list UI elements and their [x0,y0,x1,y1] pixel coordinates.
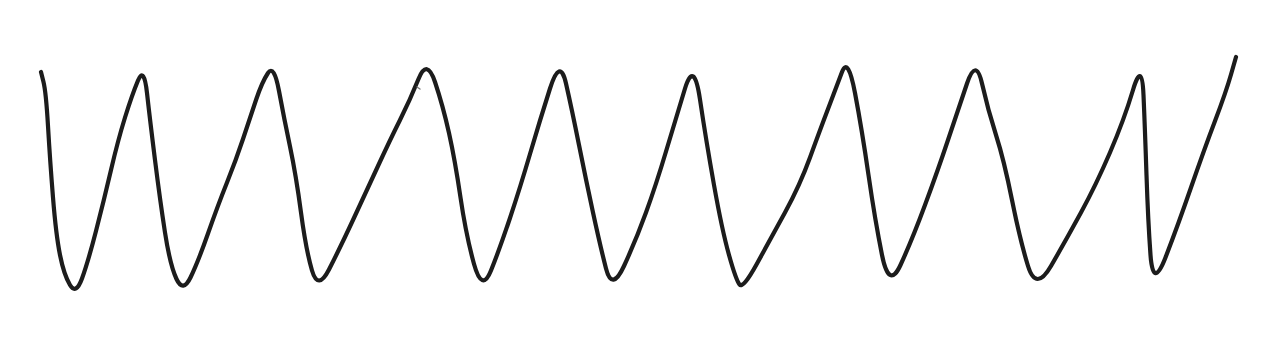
zigzag-drawing [0,0,1277,350]
drawing-canvas [0,0,1277,350]
zigzag-line [41,57,1236,289]
stray-pen-mark [417,87,420,89]
